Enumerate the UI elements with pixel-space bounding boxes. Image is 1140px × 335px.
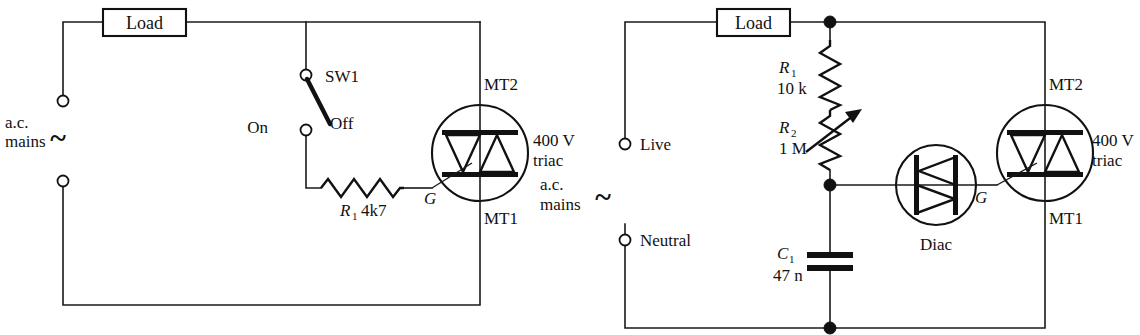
right-triac-gate-label: G bbox=[975, 188, 987, 207]
left-mains-terminal-top bbox=[58, 96, 69, 107]
neutral-terminal-label: Neutral bbox=[640, 231, 691, 250]
left-triac-type-label: triac bbox=[533, 151, 564, 170]
left-resistor-r1: R 1 4k7 bbox=[321, 179, 404, 222]
right-resistor-r1: R 1 10 k bbox=[777, 40, 840, 110]
right-mains-source-label: a.c. mains ~ bbox=[540, 175, 611, 214]
right-r2-value: 1 M bbox=[779, 139, 807, 158]
right-r2-designator: R bbox=[778, 118, 790, 137]
capacitor-plate-bottom bbox=[807, 265, 853, 271]
right-capacitor-c1: C 1 47 n bbox=[773, 244, 853, 285]
diac-label: Diac bbox=[920, 235, 953, 254]
capacitor-value: 47 n bbox=[773, 266, 803, 285]
right-mains-label-line2: mains bbox=[540, 195, 581, 214]
wire-live-to-load-right bbox=[625, 22, 717, 144]
node-dot-middle bbox=[824, 179, 836, 191]
left-load-component: Load bbox=[103, 9, 186, 36]
right-r1-subscript: 1 bbox=[791, 67, 797, 79]
right-triac-component: MT2 MT1 G 400 V triac bbox=[975, 75, 1134, 228]
left-triac-mt1-label: MT1 bbox=[484, 209, 518, 228]
right-mains-label-line1: a.c. bbox=[540, 175, 564, 194]
left-switch-sw1[interactable]: SW1 On Off bbox=[247, 67, 359, 137]
right-load-component: Load bbox=[717, 9, 790, 36]
left-circuit-group: Load a.c. mains ~ SW1 On Off R 1 4k7 bbox=[5, 9, 575, 305]
left-triac-gate-label: G bbox=[424, 189, 436, 208]
right-r1-value: 10 k bbox=[777, 79, 807, 98]
left-mains-label-line1: a.c. bbox=[5, 113, 29, 132]
circuit-diagram-figure: Load a.c. mains ~ SW1 On Off R 1 4k7 bbox=[0, 0, 1140, 335]
left-resistor-subscript: 1 bbox=[352, 210, 358, 222]
right-resistor-r2-variable: R 2 1 M bbox=[778, 109, 862, 170]
left-mains-terminal-bottom bbox=[58, 176, 69, 187]
diac-component: Diac bbox=[896, 145, 976, 254]
left-resistor-value: 4k7 bbox=[361, 201, 387, 220]
wire-switch-to-resistor bbox=[306, 131, 321, 188]
switch-off-label: Off bbox=[330, 114, 354, 133]
switch-designator-label: SW1 bbox=[325, 67, 359, 86]
capacitor-plate-top bbox=[807, 252, 853, 258]
left-ac-tilde-icon: ~ bbox=[50, 121, 66, 154]
node-dot-bottom bbox=[824, 322, 836, 334]
left-mains-label-line2: mains bbox=[5, 132, 46, 151]
neutral-terminal bbox=[620, 235, 631, 246]
right-r1-zigzag bbox=[820, 40, 840, 110]
wire-bottom-rail-right bbox=[625, 200, 1045, 328]
right-triac-mt1-label: MT1 bbox=[1049, 209, 1083, 228]
left-triac-mt2-label: MT2 bbox=[484, 75, 518, 94]
switch-on-label: On bbox=[247, 118, 268, 137]
left-resistor-zigzag bbox=[321, 179, 404, 197]
right-circuit-group: Load a.c. mains ~ Live Neutral R 1 10 k bbox=[540, 9, 1134, 334]
wire-mt1-to-neutral bbox=[63, 181, 480, 305]
left-mains-source-label: a.c. mains ~ bbox=[5, 113, 66, 154]
right-triac-rating-label: 400 V bbox=[1092, 131, 1134, 150]
wire-live-to-load bbox=[63, 22, 103, 101]
live-terminal-label: Live bbox=[640, 135, 671, 154]
live-terminal bbox=[620, 139, 631, 150]
right-r1-designator: R bbox=[778, 58, 790, 77]
right-load-label: Load bbox=[735, 13, 772, 33]
switch-contact-bottom bbox=[301, 125, 312, 136]
right-triac-type-label: triac bbox=[1092, 151, 1123, 170]
node-dot-top bbox=[824, 16, 836, 28]
right-r2-subscript: 2 bbox=[791, 127, 797, 139]
left-resistor-designator: R bbox=[339, 201, 351, 220]
left-triac-rating-label: 400 V bbox=[533, 131, 575, 150]
capacitor-subscript: 1 bbox=[789, 253, 795, 265]
circuit-diagram-canvas: Load a.c. mains ~ SW1 On Off R 1 4k7 bbox=[0, 0, 1140, 335]
right-ac-tilde-icon: ~ bbox=[595, 180, 611, 213]
right-triac-mt2-label: MT2 bbox=[1049, 75, 1083, 94]
capacitor-designator: C bbox=[777, 244, 789, 263]
left-load-label: Load bbox=[126, 13, 163, 33]
